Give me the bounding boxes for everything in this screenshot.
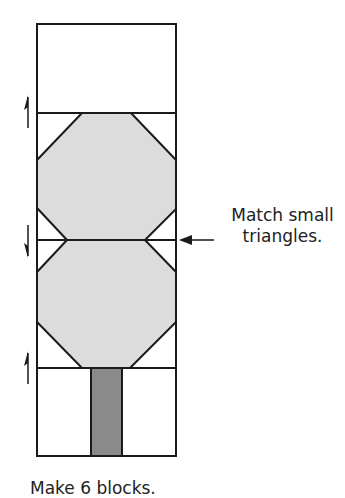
- press-arrow-up-icon: [24, 95, 28, 128]
- callout-arrow-left-icon: [179, 235, 214, 245]
- callout-text: Match small triangles.: [220, 205, 345, 247]
- callout-line-2: triangles.: [220, 226, 345, 247]
- press-arrow-up-icon: [24, 351, 28, 384]
- press-arrow-down-icon: [24, 225, 28, 258]
- caption: Make 6 blocks.: [30, 478, 156, 498]
- callout-line-1: Match small: [220, 205, 345, 226]
- trunk: [91, 368, 122, 456]
